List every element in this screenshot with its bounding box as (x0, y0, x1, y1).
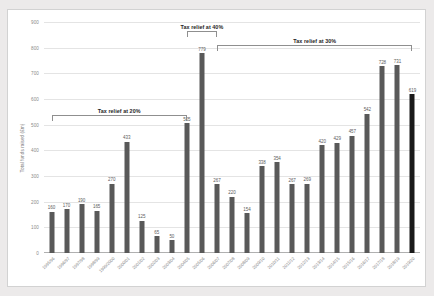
x-axis-tick-label: 2013/14 (312, 256, 326, 270)
bar-slot: 3382009/10 (255, 22, 270, 253)
bar-value-label: 619 (409, 88, 416, 93)
x-axis-tick-label: 2014/15 (327, 256, 341, 270)
bar-value-label: 267 (213, 178, 220, 183)
bar (365, 114, 370, 253)
bar-value-label: 429 (334, 136, 341, 141)
bar-value-label: 433 (123, 135, 130, 140)
bar-value-label: 731 (394, 59, 401, 64)
bar-slot: 5422016/17 (360, 22, 375, 253)
bar (305, 184, 310, 253)
y-axis-tick-label: 300 (31, 174, 39, 179)
x-axis-tick-label: 1995/96 (41, 256, 55, 270)
bar-value-label: 728 (379, 60, 386, 65)
y-axis-tick-label: 600 (31, 97, 39, 102)
bar (109, 184, 114, 253)
bar-slot: 1252001/02 (134, 22, 149, 253)
y-axis-tick-label: 100 (31, 225, 39, 230)
bar (154, 236, 159, 253)
x-axis-tick-label: 2015/16 (342, 256, 356, 270)
bar-value-label: 420 (319, 139, 326, 144)
x-axis-tick-label: 2011/12 (282, 256, 296, 270)
bar (229, 197, 234, 253)
bar-slot: 2672006/07 (209, 22, 224, 253)
bar-slot: 4202013/14 (315, 22, 330, 253)
bar (169, 240, 174, 253)
x-axis-tick-label: 2018/19 (387, 256, 401, 270)
bar (184, 123, 189, 253)
bar-slot: 6192019/20 (405, 22, 420, 253)
bar-slot: 2692012/13 (300, 22, 315, 253)
plot-area: 0100200300400500600700800900 1601995/961… (44, 22, 420, 253)
x-axis-tick-label: 1996/97 (56, 256, 70, 270)
bar-value-label: 160 (48, 205, 55, 210)
bar-value-label: 338 (258, 160, 265, 165)
bar-slot: 7792005/06 (194, 22, 209, 253)
bar-value-label: 165 (93, 204, 100, 209)
bar-value-label: 270 (108, 177, 115, 182)
bar (350, 136, 355, 253)
chart-screenshot: Total funds raised (£m) 0100200300400500… (0, 0, 434, 296)
x-axis-tick-label: 1997/98 (71, 256, 85, 270)
bar (124, 142, 129, 253)
bar-value-label: 457 (349, 129, 356, 134)
y-axis-title: Total funds raised (£m) (20, 124, 25, 173)
x-axis-tick-label: 2019/20 (402, 256, 416, 270)
bar-slot: 2202007/08 (224, 22, 239, 253)
bar-value-label: 779 (198, 47, 205, 52)
y-axis-tick-label: 0 (36, 251, 39, 256)
bar-value-label: 170 (63, 203, 70, 208)
bar (410, 94, 415, 253)
bar (214, 184, 219, 253)
bar-slot: 7282017/18 (375, 22, 390, 253)
x-axis-tick-label: 2005/06 (191, 256, 205, 270)
bar-value-label: 267 (288, 178, 295, 183)
x-axis-tick-label: 2002/03 (146, 256, 160, 270)
bar-value-label: 220 (228, 190, 235, 195)
x-axis-tick-label: 2012/13 (296, 256, 310, 270)
bar (395, 65, 400, 253)
bar-slot: 7312018/19 (390, 22, 405, 253)
x-axis-tick-label: 2004/05 (176, 256, 190, 270)
bar (79, 204, 84, 253)
bar (260, 166, 265, 253)
y-axis-tick-label: 200 (31, 199, 39, 204)
annotation-bracket (52, 115, 187, 121)
bar-value-label: 354 (273, 156, 280, 161)
bar-value-label: 125 (138, 214, 145, 219)
x-axis-tick-label: 2017/18 (372, 256, 386, 270)
bar-slot: 502003/04 (164, 22, 179, 253)
bar-value-label: 50 (169, 234, 174, 239)
bar-slot: 1601995/96 (44, 22, 59, 253)
x-axis-tick-label: 2016/17 (357, 256, 371, 270)
bar-slot: 4332000/01 (119, 22, 134, 253)
bar-slot: 1901997/98 (74, 22, 89, 253)
bar (199, 53, 204, 253)
x-axis-tick-label: 2008/09 (236, 256, 250, 270)
bar-value-label: 65 (154, 230, 159, 235)
bar-value-label: 154 (243, 207, 250, 212)
bar-value-label: 269 (304, 177, 311, 182)
y-axis-tick-label: 900 (31, 20, 39, 25)
annotation-label: Tax relief at 40% (181, 24, 224, 30)
bar-value-label: 190 (78, 198, 85, 203)
bar (335, 143, 340, 253)
y-axis-tick-label: 800 (31, 45, 39, 50)
bar (320, 145, 325, 253)
bar-slot: 2672011/12 (285, 22, 300, 253)
bar-slot: 4572015/16 (345, 22, 360, 253)
bar (64, 209, 69, 253)
bar-slot: 2701999/2000 (104, 22, 119, 253)
bar-slot: 1542008/09 (240, 22, 255, 253)
bar-slot: 5052004/05 (179, 22, 194, 253)
bar-value-label: 542 (364, 107, 371, 112)
bar (290, 184, 295, 253)
bar (275, 162, 280, 253)
annotation-bracket (217, 45, 413, 51)
x-axis-tick-label: 2010/11 (267, 256, 281, 270)
x-axis-tick-label: 2007/08 (221, 256, 235, 270)
bar (245, 213, 250, 253)
x-axis-tick-label: 2003/04 (161, 256, 175, 270)
bar-slot: 1651998/99 (89, 22, 104, 253)
annotation-label: Tax relief at 30% (293, 38, 336, 44)
bar-slot: 652002/03 (149, 22, 164, 253)
